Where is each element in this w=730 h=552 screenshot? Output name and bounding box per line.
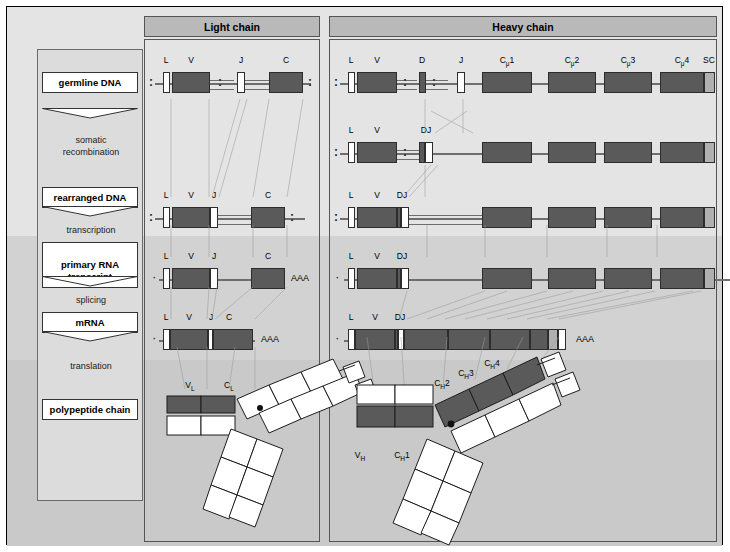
light-rearranged-label-C: C	[265, 190, 271, 200]
heavy-recombined-exon-Cmu3	[604, 142, 652, 163]
heavy-recombined-label-V: V	[374, 125, 380, 135]
heavy-mrna-exon-V	[355, 329, 395, 350]
heavy-mrna-exon-SC	[548, 329, 558, 350]
panel-light-chain: : L V : J C : : L	[144, 39, 320, 542]
heavy-germline-label-J: J	[459, 55, 463, 65]
heavy-rearranged-exon-SC	[704, 207, 715, 228]
heavy-protein-label-CH4: CH4	[484, 358, 500, 370]
light-germline-exon-L	[163, 72, 170, 93]
stage-chevron-2	[42, 206, 138, 216]
light-rna-exon-C	[251, 268, 285, 289]
heavy-mrna-exon-Cmu1	[404, 329, 448, 350]
light-germline-label-V: V	[188, 55, 194, 65]
heavy-rearranged-row: : L V DJ :	[330, 201, 718, 235]
heavy-mrna-exon-MC	[558, 329, 566, 350]
stage-process-somatic-recombination: somatic recombination	[38, 134, 144, 158]
heavy-mrna-label-V: V	[372, 312, 378, 322]
heavy-protein-label-CH3: CH3	[458, 368, 474, 380]
stage-column: germline DNA somatic recombination rearr…	[37, 49, 143, 501]
stage-box-germline-dna-label: germline DNA	[59, 77, 122, 88]
stage-process-splicing: splicing	[38, 294, 144, 306]
heavy-mrna-label-DJ: DJ	[395, 312, 405, 322]
heavy-recombined-exon-V	[357, 142, 397, 163]
light-mrna-exon-L	[163, 329, 170, 350]
light-mrna-polya: AAA	[261, 334, 279, 344]
stage-box-mrna-label: mRNA	[75, 317, 104, 328]
light-germline-exon-C	[269, 72, 303, 93]
light-rna-label-C: C	[265, 251, 271, 261]
heavy-germline-exon-Cmu2	[548, 72, 596, 93]
heavy-germline-label-D: D	[419, 55, 425, 65]
stage-box-rearranged-dna-label: rearranged DNA	[54, 192, 127, 203]
light-rearranged-row: : L V J C :	[145, 201, 321, 235]
stage-process-translation: translation	[38, 360, 144, 372]
heavy-rearranged-label-DJ: DJ	[397, 190, 407, 200]
light-rearranged-label-J: J	[212, 190, 216, 200]
heavy-recombined-row: : L V : DJ	[330, 136, 718, 170]
heavy-germline-row: : L V : D : J Cμ1 Cμ2 Cμ3	[330, 66, 718, 100]
heavy-rna-exon-L	[348, 268, 355, 289]
heavy-recombined-exon-J	[425, 142, 433, 163]
light-germline-label-L: L	[164, 55, 169, 65]
light-rearranged-label-V: V	[188, 190, 194, 200]
heavy-recombined-label-DJ: DJ	[421, 125, 431, 135]
light-rearranged-exon-C	[251, 207, 285, 228]
light-rna-polya: AAA	[291, 273, 309, 283]
light-rearranged-exon-J	[210, 207, 218, 228]
heavy-recombined-exon-SC	[704, 142, 715, 163]
heavy-germline-exon-D	[419, 72, 426, 93]
light-rna-exon-V	[172, 268, 210, 289]
panel-heavy-chain: : L V : D : J Cμ1 Cμ2 Cμ3	[329, 39, 717, 542]
heavy-rna-label-V: V	[374, 251, 380, 261]
panel-header-light-chain: Light chain	[144, 16, 320, 37]
heavy-germline-exon-Cmu1	[482, 72, 532, 93]
heavy-rna-exon-J	[401, 268, 409, 289]
heavy-rearranged-label-L: L	[349, 190, 354, 200]
heavy-recombined-label-L: L	[349, 125, 354, 135]
stage-box-rearranged-dna: rearranged DNA	[42, 187, 138, 208]
heavy-primary-rna-row: · L V DJ AAA	[330, 262, 718, 296]
light-rna-label-J: J	[212, 251, 216, 261]
heavy-germline-label-Cmu1: Cμ1	[500, 55, 515, 67]
heavy-recombined-exon-Cmu2	[548, 142, 596, 163]
light-mrna-row: · L V J C AAA	[145, 323, 321, 357]
light-rna-exon-L	[163, 268, 170, 289]
heavy-recombined-exon-L	[348, 142, 355, 163]
heavy-rna-exon-V	[357, 268, 397, 289]
light-rna-exon-J	[210, 268, 218, 289]
stage-chevron-1	[42, 108, 138, 118]
panel-header-heavy-chain-label: Heavy chain	[492, 21, 553, 33]
heavy-protein-label-CH2: CH2	[434, 378, 450, 390]
light-germline-exon-J	[237, 72, 245, 93]
heavy-rearranged-exon-Cmu2	[548, 207, 596, 228]
heavy-rna-exon-Cmu3	[604, 268, 652, 289]
light-mrna-label-C: C	[226, 312, 232, 322]
heavy-germline-exon-SC	[704, 72, 715, 93]
stage-box-polypeptide-chain: polypeptide chain	[42, 399, 138, 420]
panel-header-light-chain-label: Light chain	[204, 21, 260, 33]
light-mrna-label-L: L	[164, 312, 169, 322]
light-protein-label-CL: CL	[224, 380, 234, 392]
heavy-mrna-polya: AAA	[576, 334, 594, 344]
heavy-recombined-exon-Cmu4	[660, 142, 704, 163]
heavy-germline-label-Cmu2: Cμ2	[565, 55, 580, 67]
light-rna-label-V: V	[188, 251, 194, 261]
figure-frame: germline DNA somatic recombination rearr…	[6, 6, 723, 545]
heavy-rearranged-exon-J	[401, 207, 409, 228]
heavy-rearranged-label-V: V	[374, 190, 380, 200]
light-germline-label-J: J	[239, 55, 243, 65]
heavy-mrna-label-L: L	[349, 312, 354, 322]
light-rearranged-label-L: L	[164, 190, 169, 200]
heavy-protein-label-CH1: CH1	[394, 450, 410, 462]
panel-header-heavy-chain: Heavy chain	[329, 16, 717, 37]
heavy-germline-label-SC: SC	[703, 55, 715, 65]
heavy-mrna-exon-Cmu2	[448, 329, 490, 350]
heavy-germline-label-Cmu3: Cμ3	[621, 55, 636, 67]
stage-box-polypeptide-chain-label: polypeptide chain	[50, 404, 131, 415]
light-germline-exon-V	[172, 72, 210, 93]
heavy-mrna-row: · L V DJ AAA	[330, 323, 718, 357]
heavy-protein-label-VH: VH	[355, 450, 365, 462]
light-germline-row: : L V : J C :	[145, 66, 321, 100]
heavy-germline-exon-L	[348, 72, 355, 93]
light-germline-label-C: C	[283, 55, 289, 65]
